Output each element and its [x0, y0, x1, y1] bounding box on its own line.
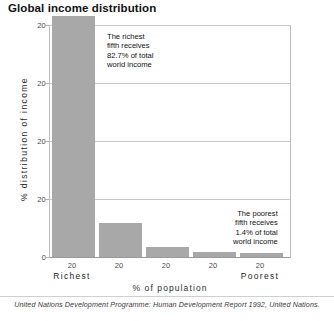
source-caption: United Nations Development Programme: Hu…	[0, 300, 334, 309]
y-tick-label-40: 20	[20, 137, 46, 146]
chart-title: Global income distribution	[8, 2, 156, 14]
x-tick-label-4: 20	[193, 261, 233, 270]
chart-container: Global income distribution % distributio…	[0, 0, 334, 321]
x-axis-line	[50, 257, 290, 258]
bar-third	[146, 247, 189, 257]
x-tick-label-3: 20	[146, 261, 186, 270]
bar-richest	[52, 16, 95, 257]
x-tick-label-1: 20	[52, 261, 92, 270]
x-tick-label-2: 20	[99, 261, 139, 270]
footer-divider	[0, 296, 334, 297]
y-tick-label-20: 20	[20, 195, 46, 204]
bar-fourth	[193, 252, 236, 257]
bar-second	[99, 223, 142, 257]
x-axis-label: % of population	[49, 283, 291, 293]
annotation-richest: The richest fifth receives 82.7% of tota…	[105, 31, 155, 71]
y-tick-label-60: 20	[20, 79, 46, 88]
y-tick-label-80: 20	[20, 21, 46, 30]
x-end-label-richest: Richest	[37, 271, 107, 281]
annotation-poorest: The poorest fifth receives 1.4% of total…	[231, 208, 280, 248]
y-tick-label-0: 0	[20, 253, 46, 262]
x-tick-label-5: 20	[240, 261, 280, 270]
x-end-label-poorest: Poorest	[225, 271, 295, 281]
bar-poorest	[240, 253, 283, 257]
